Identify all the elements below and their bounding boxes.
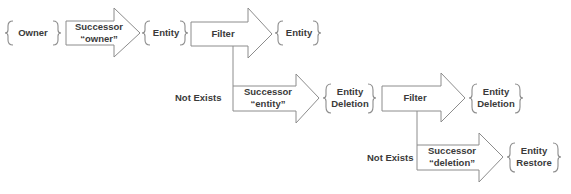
node-entity-1-label: Entity bbox=[153, 27, 179, 38]
node-entity-deletion-2-line2: Deletion bbox=[474, 98, 518, 110]
node-owner-label: Owner bbox=[18, 27, 48, 38]
arrow-successor-owner-line2: “owner” bbox=[68, 33, 130, 45]
arrow-filter-1-text: Filter bbox=[211, 28, 234, 39]
arrow-filter-1-label: Filter bbox=[195, 28, 251, 40]
arrow-successor-owner-line1: Successor bbox=[68, 21, 130, 33]
arrow-successor-entity-label: Successor “entity” bbox=[237, 86, 299, 110]
node-entity-deletion-1-line1: Entity bbox=[328, 86, 372, 98]
arrow-filter-2-label: Filter bbox=[386, 92, 444, 104]
arrow-filter-2-text: Filter bbox=[403, 92, 426, 103]
arrow-successor-deletion-label: Successor “deletion” bbox=[420, 145, 484, 169]
branch-label-not-exists-1: Not Exists bbox=[175, 92, 221, 103]
node-entity-restore-line2: Restore bbox=[512, 157, 556, 169]
arrow-successor-entity-line2: “entity” bbox=[237, 98, 299, 110]
node-entity-2-label: Entity bbox=[286, 27, 312, 38]
branch-label-not-exists-2: Not Exists bbox=[367, 152, 413, 163]
node-entity-2: Entity bbox=[281, 27, 317, 39]
node-entity-deletion-1: Entity Deletion bbox=[328, 86, 372, 110]
arrow-successor-deletion-line1: Successor bbox=[420, 145, 484, 157]
node-entity-deletion-2-line1: Entity bbox=[474, 86, 518, 98]
node-owner: Owner bbox=[12, 27, 54, 39]
diagram-canvas: Owner Entity Entity Entity Deletion Enti… bbox=[0, 0, 571, 194]
arrow-successor-entity-line1: Successor bbox=[237, 86, 299, 98]
node-entity-deletion-2: Entity Deletion bbox=[474, 86, 518, 110]
arrow-successor-deletion-line2: “deletion” bbox=[420, 157, 484, 169]
node-entity-restore-line1: Entity bbox=[512, 145, 556, 157]
node-entity-deletion-1-line2: Deletion bbox=[328, 98, 372, 110]
brace-right-owner bbox=[53, 21, 61, 45]
node-entity-restore: Entity Restore bbox=[512, 145, 556, 169]
node-entity-1: Entity bbox=[148, 27, 184, 39]
arrow-successor-owner-label: Successor “owner” bbox=[68, 21, 130, 45]
